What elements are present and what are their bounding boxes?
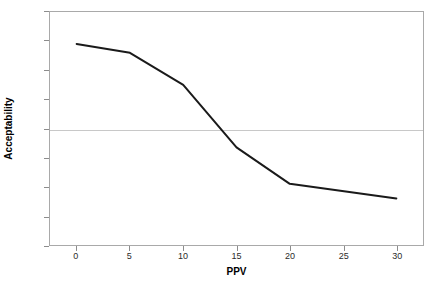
x-tick-label: 15 [217, 252, 257, 261]
chart-figure: 43210-1-2-3-4 051015202530 Acceptability… [0, 0, 432, 292]
x-tick-label: 30 [377, 252, 417, 261]
x-tick-mark [397, 246, 398, 251]
y-tick-mark [44, 11, 49, 12]
y-axis-title: Acceptability [2, 11, 16, 246]
x-tick-label: 10 [163, 252, 203, 261]
x-tick-label: 20 [270, 252, 310, 261]
x-tick-label: 0 [56, 252, 96, 261]
y-tick-mark [44, 187, 49, 188]
x-tick-mark [344, 246, 345, 251]
line-series-layer [50, 12, 423, 245]
y-tick-mark [44, 158, 49, 159]
plot-area [49, 11, 424, 246]
x-tick-label: 25 [324, 252, 364, 261]
y-tick-mark [44, 99, 49, 100]
y-tick-mark [44, 246, 49, 247]
line-series-acceptability [77, 44, 397, 198]
x-tick-mark [237, 246, 238, 251]
y-tick-mark [44, 40, 49, 41]
y-tick-mark [44, 70, 49, 71]
x-tick-mark [183, 246, 184, 251]
x-axis-title: PPV [49, 266, 424, 278]
x-tick-mark [129, 246, 130, 251]
y-tick-mark [44, 217, 49, 218]
x-tick-label: 5 [109, 252, 149, 261]
x-tick-mark [76, 246, 77, 251]
x-tick-mark [290, 246, 291, 251]
y-tick-mark [44, 129, 49, 130]
